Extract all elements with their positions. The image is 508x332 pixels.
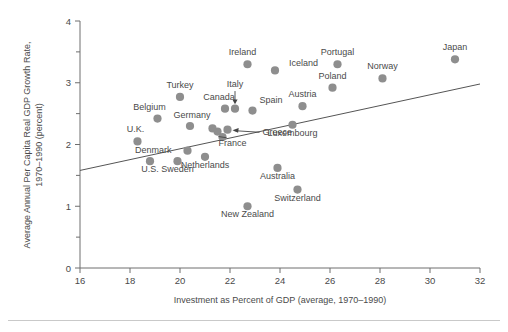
scatter-plot: 16182022242628303201234JapanIrelandIcela… xyxy=(0,0,508,332)
point-label-germany: Germany xyxy=(173,110,211,120)
point-label-turkey: Turkey xyxy=(166,80,194,90)
x-tick-label: 32 xyxy=(475,275,486,286)
point-label-portugal: Portugal xyxy=(321,47,355,57)
point-label-ireland: Ireland xyxy=(229,47,257,57)
point-label-belgium: Belgium xyxy=(133,102,166,112)
data-point-norway[interactable] xyxy=(378,74,386,82)
x-axis-title: Investment as Percent of GDP (average, 1… xyxy=(174,295,386,305)
data-point-denmark[interactable] xyxy=(183,147,191,155)
data-point-turkey[interactable] xyxy=(176,93,184,101)
y-axis-title-line1: Average Annual Per Capita Real GDP Growt… xyxy=(22,42,32,249)
y-tick-label: 3 xyxy=(66,77,71,88)
point-label-switzerland: Switzerland xyxy=(274,193,321,203)
point-label-iceland: Iceland xyxy=(289,58,318,68)
y-tick-label: 4 xyxy=(66,16,71,27)
point-label-new-zealand: New Zealand xyxy=(221,209,274,219)
data-point-italy[interactable] xyxy=(231,105,239,113)
callout-label-france: France xyxy=(218,138,246,148)
x-tick-label: 26 xyxy=(325,275,336,286)
bottom-divider xyxy=(8,320,500,321)
point-label-denmark: Denmark xyxy=(135,145,172,155)
data-point-japan[interactable] xyxy=(451,55,459,63)
x-tick-label: 16 xyxy=(75,275,86,286)
data-point-belgium[interactable] xyxy=(153,114,161,122)
point-label-sweden: Sweden xyxy=(161,164,194,174)
point-label-u-k-: U.K. xyxy=(127,124,145,134)
point-label-austria: Austria xyxy=(288,89,316,99)
point-label-poland: Poland xyxy=(318,71,346,81)
x-tick-label: 28 xyxy=(375,275,386,286)
x-tick-label: 30 xyxy=(425,275,436,286)
data-point-portugal[interactable] xyxy=(333,60,341,68)
data-point-greece[interactable] xyxy=(223,126,231,134)
point-label-canada: Canada xyxy=(203,92,235,102)
point-label-norway: Norway xyxy=(367,61,398,71)
data-point-cluster-extra-1[interactable] xyxy=(208,124,216,132)
point-label-u-s-: U.S. xyxy=(141,164,159,174)
data-point-germany[interactable] xyxy=(186,122,194,130)
x-tick-label: 22 xyxy=(225,275,236,286)
data-point-spain[interactable] xyxy=(248,106,256,114)
data-point-ireland[interactable] xyxy=(243,60,251,68)
y-axis-title-line2: 1970–1990 (percent) xyxy=(34,103,44,187)
data-point-canada[interactable] xyxy=(221,105,229,113)
y-tick-label: 1 xyxy=(66,201,71,212)
data-point-poland[interactable] xyxy=(328,84,336,92)
point-label-australia: Australia xyxy=(260,171,295,181)
callout-label-italy: Italy xyxy=(227,79,244,89)
y-tick-label: 0 xyxy=(66,263,71,274)
x-tick-label: 18 xyxy=(125,275,136,286)
y-tick-label: 2 xyxy=(66,139,71,150)
x-tick-label: 20 xyxy=(175,275,186,286)
figure-container: 16182022242628303201234JapanIrelandIcela… xyxy=(0,0,508,332)
point-label-japan: Japan xyxy=(443,42,468,52)
leader-arrowhead-greece xyxy=(233,128,239,133)
data-point-austria[interactable] xyxy=(298,102,306,110)
data-point-iceland[interactable] xyxy=(271,66,279,74)
point-label-spain: Spain xyxy=(260,95,283,105)
callout-label-greece: Greece xyxy=(263,127,293,137)
x-tick-label: 24 xyxy=(275,275,286,286)
leader-arrowhead-italy xyxy=(232,100,237,105)
